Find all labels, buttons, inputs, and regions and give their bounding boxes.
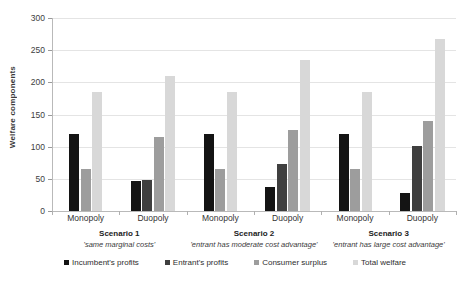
x-axis-labels: MonopolyDuopolyMonopolyDuopolyMonopolyDu… [52, 213, 456, 227]
chart-legend: Incumbent's profitsEntrant's profitsCons… [0, 258, 470, 267]
y-tick-label: 150 [31, 110, 45, 120]
legend-label: Consumer surplus [262, 258, 327, 267]
y-tick-label: 300 [31, 13, 45, 23]
scenario-caption: Scenario 2'entrant has moderate cost adv… [190, 228, 317, 250]
scenario-caption: Scenario 3'entrant has large cost advant… [333, 228, 445, 250]
legend-item: Consumer surplus [254, 258, 327, 267]
y-tick-label: 250 [31, 45, 45, 55]
legend-item: Entrant's profits [165, 258, 228, 267]
scenario-description: 'entrant has moderate cost advantage' [190, 239, 317, 250]
x-axis-label: Monopoly [337, 213, 374, 223]
scenario-name: Scenario 1 [84, 228, 156, 239]
scenario-description: 'same marginal costs' [84, 239, 156, 250]
y-axis-title-text: Welfare components [8, 66, 17, 148]
bar [69, 134, 79, 211]
bar [339, 134, 349, 211]
bar [131, 181, 141, 211]
y-tick-label: 50 [36, 174, 45, 184]
bar [81, 169, 91, 211]
legend-item: Incumbent's profits [64, 258, 139, 267]
plot-area: 050100150200250300 [52, 18, 456, 211]
y-tick-label: 0 [40, 206, 45, 216]
x-axis-label: Duopoly [272, 213, 303, 223]
bar [204, 134, 214, 211]
legend-swatch [165, 260, 170, 265]
bar [435, 39, 445, 211]
bar [412, 146, 422, 211]
legend-swatch [353, 260, 358, 265]
scenario-captions: Scenario 1'same marginal costs'Scenario … [52, 228, 456, 252]
scenario-description: 'entrant has large cost advantage' [333, 239, 445, 250]
x-axis-label: Monopoly [202, 213, 239, 223]
bar [300, 60, 310, 211]
scenario-name: Scenario 2 [190, 228, 317, 239]
scenario-name: Scenario 3 [333, 228, 445, 239]
y-tick-label: 100 [31, 142, 45, 152]
legend-label: Entrant's profits [173, 258, 228, 267]
x-axis-label: Duopoly [407, 213, 438, 223]
welfare-components-bar-chart: Welfare components 050100150200250300 Mo… [0, 0, 470, 283]
legend-swatch [64, 260, 69, 265]
bar [277, 164, 287, 211]
bar [350, 169, 360, 211]
x-tick-mark [456, 211, 457, 215]
legend-item: Total welfare [353, 258, 406, 267]
bar [142, 180, 152, 211]
legend-label: Total welfare [361, 258, 406, 267]
bar [362, 92, 372, 211]
bar [265, 187, 275, 211]
bar [288, 130, 298, 211]
x-axis-label: Monopoly [67, 213, 104, 223]
bar [165, 76, 175, 211]
bar [154, 137, 164, 211]
y-axis-title: Welfare components [2, 0, 22, 215]
bar [215, 169, 225, 211]
bar [400, 193, 410, 211]
scenario-caption: Scenario 1'same marginal costs' [84, 228, 156, 250]
bar [92, 92, 102, 211]
legend-swatch [254, 260, 259, 265]
y-tick-label: 200 [31, 77, 45, 87]
legend-label: Incumbent's profits [72, 258, 139, 267]
bars-layer [52, 18, 456, 211]
bar [227, 92, 237, 211]
x-axis-label: Duopoly [137, 213, 168, 223]
bar [423, 121, 433, 211]
